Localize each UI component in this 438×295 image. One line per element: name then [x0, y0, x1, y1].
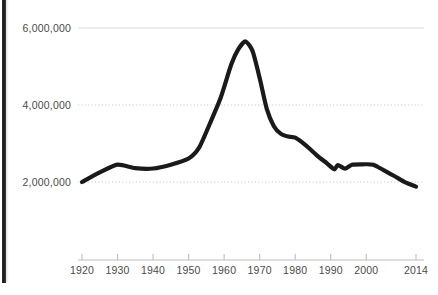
x-axis-tick-label: 1990 [319, 264, 343, 276]
x-axis-tick-label: 1970 [248, 264, 272, 276]
y-axis-tick-label: 6,000,000 [22, 22, 71, 34]
x-axis-tick-label: 1980 [283, 264, 307, 276]
x-axis-tick-label: 1930 [105, 264, 129, 276]
y-axis-tick-label: 4,000,000 [22, 99, 71, 111]
x-axis-labels-group: 1920193019401950196019701980199020002014 [70, 264, 428, 276]
x-axis-tick-label: 2000 [354, 264, 378, 276]
x-axis-group [78, 254, 424, 260]
y-axis-labels-group: 2,000,0004,000,0006,000,000 [22, 22, 71, 188]
x-axis-tick-label: 1920 [70, 264, 94, 276]
chart-container: 2,000,0004,000,0006,000,000 192019301940… [0, 0, 438, 295]
x-axis-tick-label: 2014 [404, 264, 428, 276]
x-axis-tick-label: 1950 [177, 264, 201, 276]
data-series-group [82, 41, 416, 186]
y-axis-tick-label: 2,000,000 [22, 176, 71, 188]
line-chart-plot: 2,000,0004,000,0006,000,000 192019301940… [0, 0, 438, 295]
data-line [82, 41, 416, 186]
x-axis-tick-label: 1960 [212, 264, 236, 276]
x-axis-tick-label: 1940 [141, 264, 165, 276]
